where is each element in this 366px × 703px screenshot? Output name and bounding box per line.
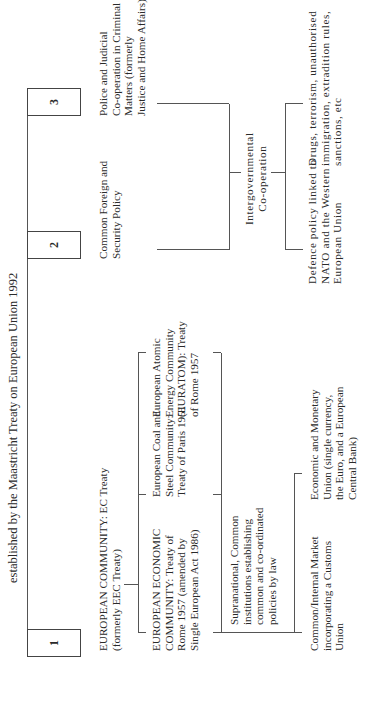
intergov-bracket-bottom: [285, 104, 286, 250]
pillar-1-label: EUROPEAN COMMUNITY: EC Treaty (formerly …: [97, 468, 122, 651]
diagram-canvas: established by the Maastricht Treaty on …: [0, 0, 366, 703]
ecsc-bottom-tick: [213, 494, 221, 495]
intergov-connector-bottom: [271, 172, 285, 173]
pillar-2-box: 2: [27, 231, 81, 259]
drugs-terrorism-label: Drugs, terrorism, unauthorised immigrati…: [306, 11, 344, 166]
ecsc-tick: [138, 494, 146, 495]
euratom-label: European Atomic Energy Community (EURATO…: [150, 321, 200, 417]
pillar-1-box: 1: [27, 629, 81, 657]
eec-tick: [138, 632, 146, 633]
eec-label: EUROPEAN ECONOMIC COMMUNITY: Treaty of R…: [150, 529, 200, 651]
outcomes-bracket: [294, 474, 295, 633]
eec-bottom-tick: [213, 632, 221, 633]
main-spine-line: [27, 88, 28, 657]
defence-tick: [285, 249, 303, 250]
common-market-label: Common/Internal Market incorporating a C…: [308, 536, 346, 651]
intergov-bracket-top: [229, 104, 230, 250]
pillar-2-drop: [157, 249, 229, 250]
market-tick: [294, 632, 302, 633]
pillar-2-label: Common Foreign and Security Policy: [97, 161, 122, 259]
pillar-3-drop: [157, 103, 229, 104]
pillar-3-box: 3: [27, 88, 81, 116]
supranational-label: Supranational, Common institutions estab…: [228, 508, 278, 625]
diagram-title: established by the Maastricht Treaty on …: [6, 273, 20, 583]
euratom-bottom-tick: [213, 352, 221, 353]
pillar-3-number: 3: [47, 99, 62, 105]
treaties-bracket-bottom: [221, 353, 222, 633]
pillar-1-number: 1: [47, 640, 62, 646]
pillar-2-number: 2: [47, 242, 62, 248]
emu-label: Economic and Monetary Union (single curr…: [308, 387, 358, 500]
emu-tick: [294, 473, 302, 474]
ecsc-label: European Coal and Steel Community: Treat…: [150, 406, 188, 497]
ec-connector: [124, 584, 138, 585]
defence-policy-label: Defence policy linked to NATO and the We…: [306, 159, 344, 284]
pillar-3-label: Police and Judicial Co-operation in Crim…: [97, 0, 147, 116]
intergov-connector-top: [229, 172, 241, 173]
intergovernmental-label: Intergovernmental Co-operation: [243, 132, 268, 225]
supranational-left-rule: [221, 632, 294, 633]
treaties-bracket-top: [138, 353, 139, 633]
euratom-tick: [138, 352, 146, 353]
drugs-tick: [285, 103, 303, 104]
